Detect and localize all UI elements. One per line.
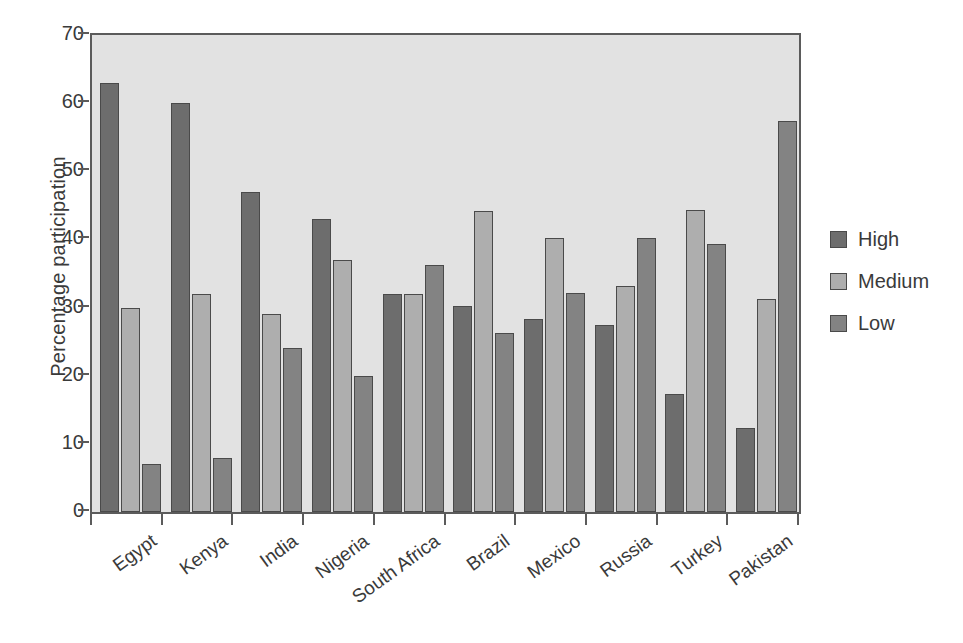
x-tick-mark [585, 512, 587, 525]
bar [383, 294, 402, 512]
bar [595, 325, 614, 512]
legend-label: Low [858, 312, 895, 335]
x-tick-mark [444, 512, 446, 525]
y-tick-mark-20 [78, 373, 89, 375]
legend-swatch-icon [830, 315, 847, 332]
bar-group [524, 35, 585, 512]
y-tick-mark-50 [78, 168, 89, 170]
chart-legend: HighMediumLow [830, 218, 929, 344]
legend-item-high[interactable]: High [830, 218, 929, 260]
bar-group [383, 35, 444, 512]
bar [736, 428, 755, 512]
bar [495, 333, 514, 512]
bar-chart-figure: Percentage participation 706050403020100… [0, 0, 963, 643]
bar [100, 83, 119, 512]
x-tick-mark [161, 512, 163, 525]
x-tick-mark [90, 512, 92, 525]
bar [171, 103, 190, 512]
x-axis-label-mexico: Mexico [523, 530, 585, 583]
bar [142, 464, 161, 512]
bar [665, 394, 684, 512]
x-tick-mark [726, 512, 728, 525]
x-tick-mark [231, 512, 233, 525]
x-axis-label-turkey: Turkey [667, 530, 726, 582]
bar [757, 299, 776, 512]
y-tick-mark-10 [78, 441, 89, 443]
bar-group [595, 35, 656, 512]
bar [545, 238, 564, 512]
y-tick-mark-30 [78, 305, 89, 307]
bar [283, 348, 302, 512]
bar [213, 458, 232, 513]
bar [333, 260, 352, 512]
bar [637, 238, 656, 512]
bar [524, 319, 543, 512]
x-axis-label-kenya: Kenya [175, 530, 232, 579]
legend-swatch-icon [830, 273, 847, 290]
bar [686, 210, 705, 512]
bar [566, 293, 585, 512]
bar-group [665, 35, 726, 512]
legend-label: High [858, 228, 899, 251]
bar [453, 306, 472, 512]
x-tick-mark [302, 512, 304, 525]
bar [354, 376, 373, 512]
bar-group [100, 35, 161, 512]
bar-group [736, 35, 797, 512]
bar [474, 211, 493, 512]
x-axis-label-pakistan: Pakistan [725, 530, 797, 591]
legend-swatch-icon [830, 231, 847, 248]
legend-item-low[interactable]: Low [830, 302, 929, 344]
plot-area [90, 33, 801, 514]
y-tick-mark-70 [78, 32, 89, 34]
bar [616, 286, 635, 512]
bar [425, 265, 444, 512]
bar [778, 121, 797, 512]
bar [262, 314, 281, 512]
y-tick-mark-40 [78, 236, 89, 238]
bar [192, 294, 211, 512]
bar-group [171, 35, 232, 512]
x-tick-mark [656, 512, 658, 525]
x-axis-label-brazil: Brazil [463, 530, 514, 576]
bar-group [453, 35, 514, 512]
bar-group [312, 35, 373, 512]
legend-item-medium[interactable]: Medium [830, 260, 929, 302]
y-tick-mark-60 [78, 100, 89, 102]
y-axis-title: Percentage participation [47, 57, 70, 477]
x-tick-mark [514, 512, 516, 525]
bar [241, 192, 260, 512]
x-tick-mark [373, 512, 375, 525]
bar [121, 308, 140, 512]
bar [312, 219, 331, 512]
x-axis-label-nigeria: Nigeria [311, 530, 373, 583]
x-axis-label-india: India [256, 530, 302, 572]
legend-label: Medium [858, 270, 929, 293]
y-tick-mark-0 [78, 509, 89, 511]
x-tick-mark [797, 512, 799, 525]
bar [404, 294, 423, 512]
bar [707, 244, 726, 512]
x-axis-label-egypt: Egypt [109, 530, 161, 576]
x-axis-label-russia: Russia [596, 530, 656, 582]
bar-group [241, 35, 302, 512]
